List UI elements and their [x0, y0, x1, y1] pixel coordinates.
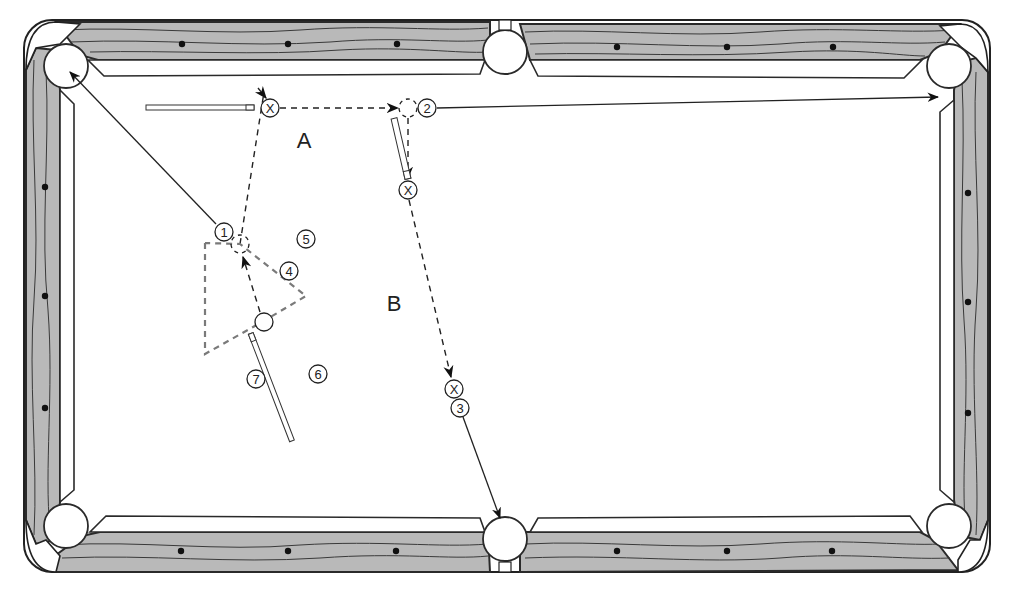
x-marker-b2: X	[445, 380, 463, 398]
svg-text:X: X	[404, 183, 413, 198]
svg-text:1: 1	[220, 225, 227, 240]
diamond-marker	[965, 410, 971, 416]
ball-3: 3	[451, 399, 469, 417]
cue-ball	[255, 313, 273, 331]
svg-text:7: 7	[252, 372, 259, 387]
x-marker-a: X	[261, 99, 279, 117]
rail-top-left	[56, 22, 490, 60]
zone-label-a: A	[297, 128, 312, 153]
diamond-marker	[42, 405, 48, 411]
pocket-bottom-right	[927, 504, 971, 548]
pocket-top-right	[927, 44, 971, 88]
diamond-marker	[614, 44, 620, 50]
ball-1: 1	[215, 223, 233, 241]
diamond-marker	[829, 548, 835, 554]
diamond-marker	[965, 190, 971, 196]
diamond-marker	[614, 548, 620, 554]
table-frame	[24, 20, 990, 572]
diamond-marker	[178, 548, 184, 554]
zone-label-b: B	[387, 291, 402, 316]
svg-text:X: X	[266, 101, 275, 116]
rail-right	[954, 58, 988, 540]
diamond-marker	[42, 293, 48, 299]
ball-7: 7	[247, 370, 265, 388]
x-marker-b1: X	[399, 181, 417, 199]
diamond-marker	[285, 548, 291, 554]
pocket-top-center	[483, 30, 527, 74]
cue-stick-a	[146, 105, 254, 110]
ball-6: 6	[309, 365, 327, 383]
diamond-marker	[285, 41, 291, 47]
pocket-bottom-left	[44, 504, 88, 548]
rail-top-right	[520, 24, 960, 60]
ball-5: 5	[297, 230, 315, 248]
diamond-marker	[394, 41, 400, 47]
rail-bottom-right	[520, 532, 958, 572]
svg-text:6: 6	[314, 367, 321, 382]
diamond-marker	[393, 548, 399, 554]
diamond-marker	[724, 44, 730, 50]
diamond-marker	[965, 299, 971, 305]
pocket-top-left	[44, 44, 88, 88]
svg-text:3: 3	[456, 401, 463, 416]
diamond-marker	[179, 41, 185, 47]
ball-4: 4	[280, 262, 298, 280]
diamond-marker	[724, 548, 730, 554]
pocket-bottom-center	[483, 517, 527, 561]
svg-text:5: 5	[302, 232, 309, 247]
svg-text:4: 4	[285, 264, 292, 279]
diamond-marker	[830, 44, 836, 50]
svg-text:X: X	[450, 382, 459, 397]
pool-table-diagram: A B X X X 1 2 3 4 5 6 7	[0, 0, 1009, 591]
ball-2: 2	[418, 99, 436, 117]
rail-bottom-left	[56, 532, 490, 572]
diamond-marker	[42, 184, 48, 190]
svg-text:2: 2	[423, 101, 430, 116]
